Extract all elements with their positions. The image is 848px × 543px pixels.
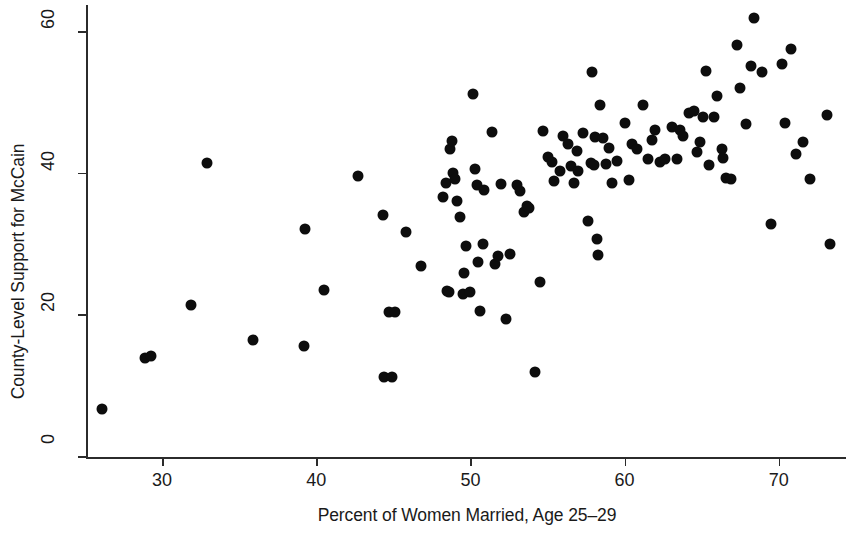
x-tick-mark [316, 458, 318, 466]
data-point [542, 152, 553, 163]
data-point [416, 260, 427, 271]
data-point [590, 132, 601, 143]
y-tick-label: 40 [38, 151, 59, 195]
x-axis-line [86, 457, 846, 459]
data-point [457, 288, 468, 299]
x-tick-mark [779, 458, 781, 466]
data-point [548, 175, 559, 186]
data-point [247, 334, 258, 345]
data-point [704, 160, 715, 171]
data-point [523, 203, 534, 214]
data-point [611, 155, 622, 166]
data-point [505, 248, 516, 259]
data-point [437, 191, 448, 202]
data-point [490, 259, 501, 270]
data-point [779, 118, 790, 129]
data-point [448, 167, 459, 178]
x-tick-mark [625, 458, 627, 466]
data-point [756, 67, 767, 78]
data-point [721, 173, 732, 184]
data-point [692, 146, 703, 157]
data-point [593, 249, 604, 260]
data-point [732, 39, 743, 50]
data-point [591, 234, 602, 245]
data-point [798, 137, 809, 148]
data-point [379, 372, 390, 383]
data-point [577, 128, 588, 139]
y-axis-title: County-Level Support for McCain [0, 0, 36, 543]
data-point [766, 218, 777, 229]
data-point [701, 65, 712, 76]
x-tick-mark [162, 458, 164, 466]
data-point [786, 43, 797, 54]
data-point [607, 178, 618, 189]
data-point [470, 164, 481, 175]
data-point [712, 90, 723, 101]
data-point [496, 179, 507, 190]
data-point [465, 287, 476, 298]
data-point [562, 138, 573, 149]
data-point [449, 174, 460, 185]
data-point-layer [0, 0, 848, 543]
data-point [400, 226, 411, 237]
data-point [440, 178, 451, 189]
data-point [588, 160, 599, 171]
data-point [474, 305, 485, 316]
data-point [741, 118, 752, 129]
x-axis-title: Percent of Women Married, Age 25–29 [86, 505, 848, 526]
data-point [709, 111, 720, 122]
data-point [718, 152, 729, 163]
y-tick-label: 0 [38, 434, 59, 478]
data-point [454, 211, 465, 222]
data-point [582, 215, 593, 226]
data-point [598, 133, 609, 144]
data-point [519, 206, 530, 217]
data-point [352, 170, 363, 181]
data-point [471, 179, 482, 190]
y-tick-mark [78, 31, 86, 33]
data-point [547, 157, 558, 168]
scatter-plot-figure: County-Level Support for McCain Percent … [0, 0, 848, 543]
data-point [479, 184, 490, 195]
data-point [735, 82, 746, 93]
data-point [647, 134, 658, 145]
data-point [725, 174, 736, 185]
data-point [473, 257, 484, 268]
data-point [678, 130, 689, 141]
data-point [821, 109, 832, 120]
data-point [631, 143, 642, 154]
data-point [146, 351, 157, 362]
data-point [659, 153, 670, 164]
data-point [96, 404, 107, 415]
y-tick-label: 20 [38, 292, 59, 336]
data-point [493, 251, 504, 262]
data-point [511, 179, 522, 190]
data-point [688, 106, 699, 117]
data-point [587, 67, 598, 78]
data-point [445, 143, 456, 154]
data-point [650, 124, 661, 135]
x-tick-label: 40 [292, 470, 340, 491]
y-tick-mark [78, 314, 86, 316]
data-point [451, 196, 462, 207]
data-point [695, 136, 706, 147]
data-point [716, 144, 727, 155]
data-point [386, 371, 397, 382]
data-point [554, 165, 565, 176]
data-point [601, 158, 612, 169]
data-point [624, 174, 635, 185]
data-point [667, 122, 678, 133]
x-tick-label: 50 [446, 470, 494, 491]
data-point [377, 210, 388, 221]
data-point [627, 139, 638, 150]
y-tick-label: 60 [38, 9, 59, 53]
data-point [459, 267, 470, 278]
data-point [672, 154, 683, 165]
data-point [571, 145, 582, 156]
data-point [514, 186, 525, 197]
x-tick-label: 60 [601, 470, 649, 491]
data-point [522, 201, 533, 212]
data-point [698, 111, 709, 122]
y-tick-mark [78, 173, 86, 175]
data-point [530, 366, 541, 377]
